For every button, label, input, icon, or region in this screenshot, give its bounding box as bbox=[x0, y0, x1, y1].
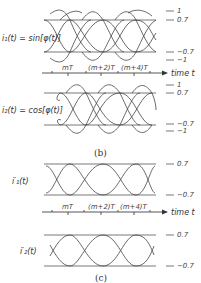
tick-mT: mT bbox=[62, 64, 74, 72]
tick-m2T: (m+2)T bbox=[88, 203, 116, 211]
arrow-right-icon bbox=[162, 210, 168, 215]
tick-m4T: (m+4)T bbox=[121, 64, 149, 72]
level-0p7: 0.7 bbox=[177, 89, 189, 97]
level-1: 1 bbox=[177, 7, 181, 15]
caption-b: (b) bbox=[94, 148, 107, 158]
level-marks-i1 bbox=[166, 11, 174, 60]
signal-label-i1: i₁(t) = sin[φ(t)] bbox=[2, 34, 61, 43]
caption-c: (c) bbox=[95, 273, 107, 283]
level-1: 1 bbox=[177, 81, 181, 89]
eye-diagram-i2-prime bbox=[44, 235, 156, 266]
eye-diagram-figure: i₁(t) = sin[φ(t)] 1 0.7 −0.7 −1 mT (m+2)… bbox=[0, 0, 201, 283]
eye-diagram-i1-prime bbox=[44, 164, 156, 195]
level-0p7: 0.7 bbox=[177, 16, 189, 24]
signal-label-i2-prime: i′₂(t) bbox=[20, 247, 37, 256]
level-neg-0p7: −0.7 bbox=[177, 191, 195, 199]
tick-m2T: (m+2)T bbox=[88, 64, 116, 72]
signal-label-i2: i₂(t) = cos[φ(t)] bbox=[2, 106, 63, 115]
signal-label-i1-prime: i′₁(t) bbox=[12, 177, 29, 186]
time-axis-label: time t bbox=[171, 208, 196, 217]
level-0p7: 0.7 bbox=[177, 231, 189, 239]
tick-m4T: (m+4)T bbox=[120, 203, 148, 211]
level-neg-1: −1 bbox=[177, 127, 187, 135]
level-0p7: 0.7 bbox=[177, 160, 189, 168]
time-axis-label: time t bbox=[171, 69, 196, 78]
arrow-right-icon bbox=[162, 71, 168, 76]
tick-mT: mT bbox=[62, 203, 74, 211]
level-marks-i2 bbox=[166, 85, 174, 131]
level-neg-0p7: −0.7 bbox=[177, 262, 195, 270]
level-neg-1: −1 bbox=[177, 56, 187, 64]
level-neg-0p7: −0.7 bbox=[177, 48, 195, 56]
